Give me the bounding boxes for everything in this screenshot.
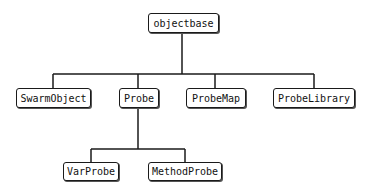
node-varprobe: VarProbe	[63, 162, 119, 181]
node-swarmobject: SwarmObject	[16, 88, 91, 108]
node-methodprobe: MethodProbe	[148, 162, 222, 181]
node-probemap: ProbeMap	[186, 88, 246, 108]
node-probelibrary: ProbeLibrary	[273, 88, 355, 108]
node-objectbase: objectbase	[148, 13, 219, 33]
node-probe: Probe	[119, 88, 159, 108]
class-hierarchy-diagram: objectbase SwarmObject Probe ProbeMap Pr…	[0, 0, 370, 190]
